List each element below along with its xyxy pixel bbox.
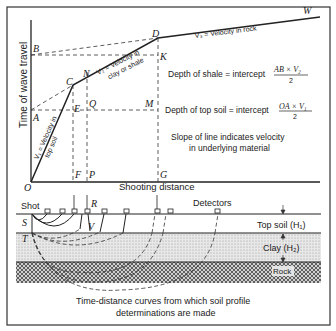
x-axis-label: Shooting distance <box>119 181 195 192</box>
detector <box>155 209 160 213</box>
label-d: D <box>151 28 160 39</box>
label-f: F <box>74 169 82 180</box>
detector <box>168 209 173 213</box>
caption-line1: Time-distance curves from which soil pro… <box>76 296 250 306</box>
time-distance-curve <box>31 17 320 182</box>
depth-topsoil-numerator: OA × V₁ <box>279 102 307 111</box>
depth-shale-denominator: 2 <box>289 77 293 84</box>
depth-shale-numerator: AB × V₂ <box>273 65 301 74</box>
depth-topsoil-denominator: 2 <box>293 113 297 120</box>
label-c: C <box>66 76 73 87</box>
detector <box>45 209 50 213</box>
label-m: M <box>144 98 154 109</box>
depth-topsoil-text: Depth of top soil = intercept <box>165 105 269 115</box>
detector <box>72 209 77 213</box>
label-v: V <box>88 221 96 232</box>
label-a: A <box>32 112 40 123</box>
time-distance-graph: O A B C N D W E Q M K F P G Time of wave… <box>18 5 320 193</box>
detector <box>60 209 65 213</box>
layer-label-clay: Clay (H₂) <box>263 243 300 253</box>
label-s: S <box>22 217 27 228</box>
label-q: Q <box>89 98 97 109</box>
shot-label: Shot <box>21 201 40 211</box>
layer-label-rock: Rock <box>273 267 292 276</box>
detectors-label: Detectors <box>193 198 232 208</box>
slope-note-line1: Slope of line indicates velocity <box>171 132 285 142</box>
layer-label-top-soil: Top soil (H₁) <box>257 220 306 230</box>
slope-note-line2: in underlying material <box>189 143 270 153</box>
detector <box>85 209 90 213</box>
caption-line2: determinations are made <box>116 308 216 318</box>
depth-shale-text: Depth of shale = intercept <box>168 69 266 79</box>
seismic-refraction-figure: O A B C N D W E Q M K F P G Time of wave… <box>0 0 336 331</box>
label-p: P <box>88 169 95 180</box>
detector <box>124 209 129 213</box>
line-a-c <box>31 85 73 110</box>
label-r: R <box>90 198 97 209</box>
soil-profile: Shot Detectors S T R V Top soil (H₁) Cla… <box>16 195 321 290</box>
label-b: B <box>33 43 39 54</box>
detector <box>102 209 107 213</box>
label-k: K <box>159 51 168 62</box>
label-g: G <box>160 169 167 180</box>
y-axis-label: Time of wave travel <box>18 42 29 128</box>
label-o: O <box>24 182 31 193</box>
detector <box>215 209 220 213</box>
label-e: E <box>73 103 80 114</box>
v3-label: V₃ = Velocity in rock <box>194 24 257 40</box>
label-n: N <box>82 68 91 79</box>
